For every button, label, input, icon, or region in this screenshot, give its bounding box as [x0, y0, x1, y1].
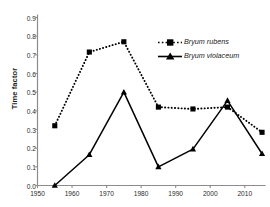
data-point-marker — [225, 105, 230, 110]
plot-area — [0, 0, 270, 207]
legend-label-bryum-rubens: Bryum rubens — [184, 37, 229, 46]
data-point-marker — [52, 123, 57, 128]
legend-swatch-solid-triangle-icon — [157, 50, 183, 63]
chart-legend: Bryum rubens Bryum violaceum — [157, 36, 267, 64]
legend-item-bryum-rubens: Bryum rubens — [157, 36, 267, 50]
legend-item-bryum-violaceum: Bryum violaceum — [157, 50, 267, 64]
legend-swatch-dotted-square-icon — [157, 36, 183, 49]
data-point-marker — [259, 130, 264, 135]
data-point-marker — [156, 105, 161, 110]
data-point-marker — [87, 49, 92, 54]
data-point-marker — [224, 97, 230, 103]
data-point-marker — [121, 89, 127, 95]
data-point-marker — [190, 106, 195, 111]
data-point-marker — [121, 39, 126, 44]
chart-figure: Time factor 0.00.10.20.30.40.50.60.70.80… — [0, 0, 270, 207]
legend-label-bryum-violaceum: Bryum violaceum — [184, 51, 239, 60]
